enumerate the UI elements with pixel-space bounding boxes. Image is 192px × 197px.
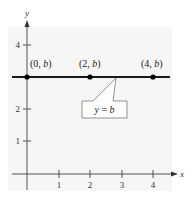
y-tick-label-2: 2	[16, 104, 21, 114]
x-tick-label-3: 3	[120, 180, 125, 190]
x-tick-label-4: 4	[151, 180, 156, 190]
x-axis-label: x	[179, 169, 184, 179]
y-axis-label: y	[24, 8, 29, 18]
x-tick-label-1: 1	[57, 180, 62, 190]
x-axis-arrow-icon	[171, 172, 178, 177]
y-tick-label-4: 4	[16, 40, 21, 50]
point-label-0-b: (0, b)	[30, 58, 52, 70]
y-tick-label-1: 1	[16, 136, 21, 146]
y-axis-arrow-icon	[25, 20, 30, 27]
callout-text: y = b	[93, 104, 114, 115]
x-tick-label-2: 2	[88, 180, 93, 190]
graph-canvas: x 1 2 3 4 y 1 2 4 (0, b) (2, b) (4, b) y…	[0, 0, 192, 197]
point-label-4-b: (4, b)	[141, 58, 163, 70]
point-label-2-b: (2, b)	[79, 58, 101, 70]
point-0-b	[24, 74, 29, 79]
point-4-b	[150, 74, 155, 79]
point-2-b	[87, 74, 92, 79]
